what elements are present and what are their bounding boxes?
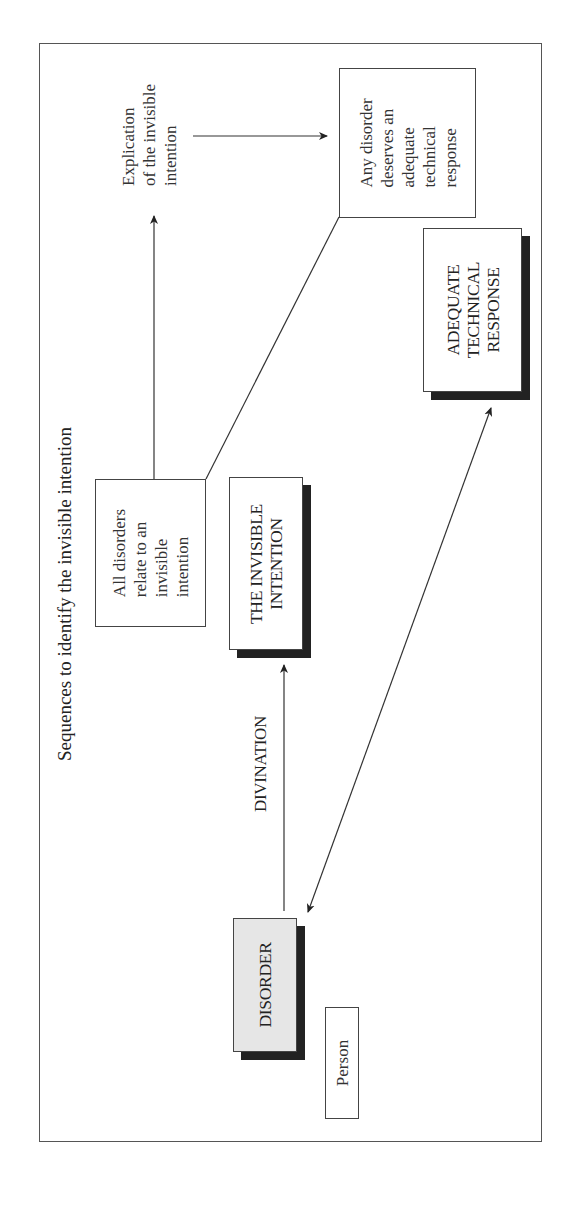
line-all-disorders-to-any-disorder (206, 217, 339, 479)
node-adequate-technical-response: ADEQUATE TECHNICAL RESPONSE (423, 228, 522, 392)
explication-line-3: intention (160, 84, 181, 186)
adequate-line-1: ADEQUATE (443, 262, 463, 358)
node-any-disorder: Any disorder deserves an adequate techni… (339, 68, 476, 218)
node-person: Person (325, 1007, 359, 1119)
node-disorder: DISORDER (233, 918, 297, 1052)
any-disorder-line-5: response (439, 98, 460, 187)
node-explication: Explication of the invisible intention (113, 66, 185, 204)
any-disorder-line-4: technical (418, 98, 439, 187)
node-all-disorders: All disorders relate to an invisible int… (95, 479, 206, 627)
all-disorders-line-4: intention (172, 509, 193, 597)
all-disorders-line-2: relate to an (130, 509, 151, 597)
explication-line-2: of the invisible (139, 84, 160, 186)
node-invisible-intention: THE INVISIBLE INTENTION (229, 477, 303, 650)
divination-text: DIVINATION (251, 716, 271, 812)
double-arrow-disorder-adequate-response (308, 408, 491, 912)
adequate-line-2: TECHNICAL (463, 262, 483, 358)
explication-line-1: Explication (118, 84, 139, 186)
invisible-intention-line-2: INTENTION (266, 503, 286, 623)
all-disorders-line-3: invisible (151, 509, 172, 597)
diagram-title-text: Sequences to identify the invisible inte… (54, 427, 76, 761)
disorder-line-1: DISORDER (255, 942, 275, 1027)
edge-label-divination: DIVINATION (248, 672, 274, 856)
person-line-1: Person (332, 1040, 353, 1086)
any-disorder-line-1: Any disorder (355, 98, 376, 187)
any-disorder-line-2: deserves an (376, 98, 397, 187)
any-disorder-line-3: adequate (397, 98, 418, 187)
invisible-intention-line-1: THE INVISIBLE (246, 503, 266, 623)
diagram-title: Sequences to identify the invisible inte… (52, 368, 78, 820)
all-disorders-line-1: All disorders (109, 509, 130, 597)
adequate-line-3: RESPONSE (483, 262, 503, 358)
